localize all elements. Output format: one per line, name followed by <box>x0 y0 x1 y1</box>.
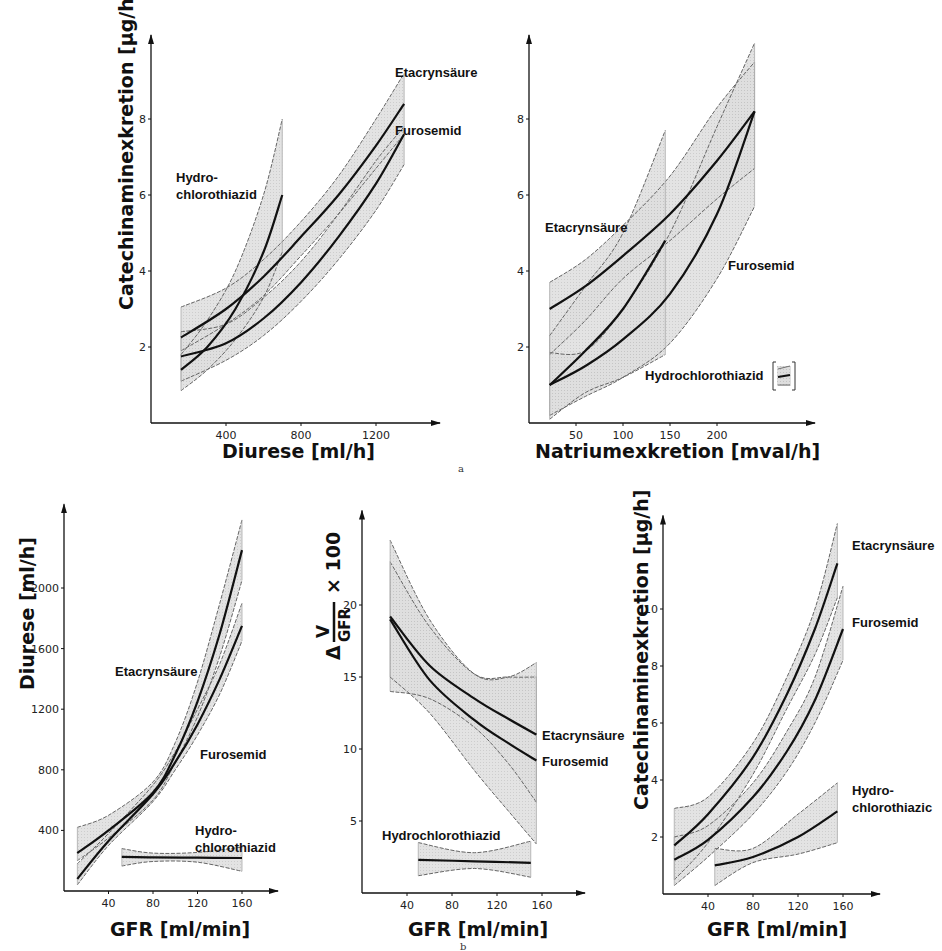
series-label: Hydro- <box>852 783 894 798</box>
y-axis-title-catecholamine-b: Catechinaminexkretion [µg/h] <box>630 490 652 810</box>
x-tick-label: 120 <box>788 900 809 913</box>
series-label: Furosemid <box>200 747 267 762</box>
svg-text:× 100: × 100 <box>322 532 344 594</box>
series-label: Hydrochlorothiazid <box>645 368 764 383</box>
y-tick-label: 4 <box>139 265 146 278</box>
y-tick-label: 4 <box>517 265 524 278</box>
y-tick-label: 2 <box>651 831 658 844</box>
svg-text:GFR: GFR <box>336 607 354 642</box>
x-tick-label: 80 <box>445 899 459 912</box>
y-tick-label: 6 <box>139 189 146 202</box>
y-axis-title-delta-v-gfr: Δ V GFR × 100 <box>313 532 354 660</box>
regression-line <box>77 550 242 853</box>
y-tick-label: 400 <box>38 824 59 837</box>
series-label: chlorothiazid <box>195 840 276 855</box>
y-tick-label: 2 <box>139 341 146 354</box>
x-axis-title-gfr-3: GFR [ml/min] <box>707 918 847 940</box>
series-label: Etacrynsäure <box>115 664 197 679</box>
series-label: Furosemid <box>728 258 795 273</box>
x-tick-label: 160 <box>833 900 854 913</box>
svg-text:V: V <box>313 624 333 638</box>
y-tick-label: 1200 <box>31 703 59 716</box>
y-tick-label: 15 <box>343 671 357 684</box>
y-tick-label: 2 <box>517 341 524 354</box>
y-axis-title-diurese: Diurese [ml/h] <box>16 537 38 690</box>
series-label: Hydrochlorothiazid <box>382 828 501 843</box>
series-label: Etacrynsäure <box>852 538 934 553</box>
x-tick-label: 160 <box>532 899 553 912</box>
x-tick-label: 120 <box>487 899 508 912</box>
y-tick-label: 8 <box>139 113 146 126</box>
x-tick-label: 80 <box>146 897 160 910</box>
y-tick-label: 6 <box>651 717 658 730</box>
y-tick-label: 8 <box>517 113 524 126</box>
regression-line <box>122 857 242 858</box>
y-axis-title-catecholamine-a: Catechinaminexkretion [µg/h] <box>115 0 137 310</box>
panel-label-b: b <box>460 941 466 951</box>
series-label: chlorothiazid <box>176 187 257 202</box>
series-label: Etacrynsäure <box>395 65 477 80</box>
x-axis-title-gfr-1: GFR [ml/min] <box>110 918 250 940</box>
y-tick-label: 4 <box>651 774 658 787</box>
x-tick-label: 80 <box>746 900 760 913</box>
chart-gfr-catecholamine: 4080120160246810EtacrynsäureFurosemidHyd… <box>644 516 934 914</box>
series-label: Etacrynsäure <box>542 728 624 743</box>
series-label: Furosemid <box>852 615 919 630</box>
y-tick-label: 10 <box>343 743 357 756</box>
series-label: Etacrynsäure <box>545 220 627 235</box>
y-tick-label: 8 <box>651 660 658 673</box>
x-axis-title-gfr-2: GFR [ml/min] <box>408 918 548 940</box>
chart-natrium-catecholamine: 501001502002468EtacrynsäureFurosemidHydr… <box>517 35 815 442</box>
x-tick-label: 40 <box>102 897 116 910</box>
x-axis-title-diurese: Diurese [ml/h] <box>222 440 375 462</box>
y-tick-label: 5 <box>350 815 357 828</box>
panel-label-a: a <box>458 463 464 474</box>
x-tick-label: 160 <box>232 897 253 910</box>
x-axis-title-natrium: Natriumexkretion [mval/h] <box>535 440 820 462</box>
series-label: chlorothiazic <box>852 800 932 815</box>
series-label: Furosemid <box>542 754 609 769</box>
y-tick-label: 6 <box>517 189 524 202</box>
figure: 40080012002468EtacrynsäureFurosemidHydro… <box>0 0 942 951</box>
series-label: Hydro- <box>176 170 218 185</box>
series-label: Furosemid <box>395 123 462 138</box>
y-tick-label: 800 <box>38 764 59 777</box>
chart-gfr-delta-v: 40801201605101520EtacrynsäureFurosemidHy… <box>343 511 624 912</box>
x-tick-label: 40 <box>701 900 715 913</box>
series-label: Hydro- <box>195 823 237 838</box>
chart-diurese-catecholamine: 40080012002468EtacrynsäureFurosemidHydro… <box>139 35 477 442</box>
x-tick-label: 40 <box>400 899 414 912</box>
x-tick-label: 120 <box>187 897 208 910</box>
chart-gfr-diurese: 4080120160400800120016002000Etacrynsäure… <box>31 504 278 910</box>
svg-text:Δ: Δ <box>322 645 344 660</box>
legend-bracket-icon <box>773 362 795 390</box>
